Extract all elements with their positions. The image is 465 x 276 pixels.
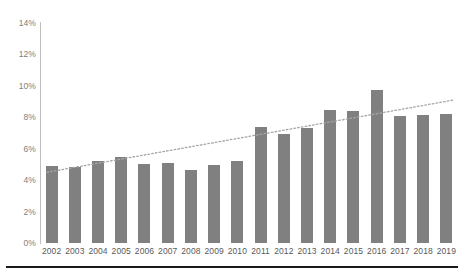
bar-slot: [86, 23, 109, 243]
bar[interactable]: [371, 90, 383, 243]
bar-slot: [226, 23, 249, 243]
x-tick-label: 2008: [179, 246, 202, 256]
bar[interactable]: [440, 114, 452, 243]
x-tick-label: 2004: [86, 246, 109, 256]
bar-slot: [365, 23, 388, 243]
x-tick-label: 2005: [110, 246, 133, 256]
bar-slot: [40, 23, 63, 243]
bar[interactable]: [138, 164, 150, 243]
x-tick-label: 2012: [272, 246, 295, 256]
x-tick-label: 2010: [226, 246, 249, 256]
bar[interactable]: [69, 167, 81, 243]
bar[interactable]: [255, 127, 267, 243]
x-tick-label: 2009: [203, 246, 226, 256]
bar-slot: [272, 23, 295, 243]
bar-slot: [179, 23, 202, 243]
bar[interactable]: [208, 165, 220, 243]
bar[interactable]: [115, 157, 127, 243]
bar[interactable]: [394, 116, 406, 243]
bar-slot: [388, 23, 411, 243]
bar[interactable]: [231, 161, 243, 243]
bar-slot: [203, 23, 226, 243]
bar-slot: [249, 23, 272, 243]
bar[interactable]: [92, 161, 104, 243]
x-tick-label: 2015: [342, 246, 365, 256]
bar-slot: [156, 23, 179, 243]
y-tick-label: 0%: [24, 238, 37, 248]
bar-chart: 0%2%4%6%8%10%12%14% 20022003200420052006…: [0, 0, 465, 276]
x-tick-label: 2002: [40, 246, 63, 256]
y-tick-label: 12%: [19, 49, 36, 59]
bar-slot: [342, 23, 365, 243]
y-tick-label: 2%: [24, 207, 37, 217]
x-tick-label: 2013: [295, 246, 318, 256]
bar-slot: [435, 23, 458, 243]
plot-area: [40, 23, 458, 243]
x-tick-label: 2019: [435, 246, 458, 256]
bar[interactable]: [278, 134, 290, 243]
bar[interactable]: [347, 111, 359, 243]
x-axis-tick-labels: 2002200320042005200620072008200920102011…: [40, 246, 458, 262]
bar-slot: [133, 23, 156, 243]
y-tick-label: 4%: [24, 175, 37, 185]
x-tick-label: 2007: [156, 246, 179, 256]
y-axis-tick-labels: 0%2%4%6%8%10%12%14%: [0, 0, 36, 276]
x-tick-label: 2016: [365, 246, 388, 256]
x-tick-label: 2003: [63, 246, 86, 256]
y-tick-label: 8%: [24, 112, 37, 122]
x-tick-label: 2017: [388, 246, 411, 256]
bar[interactable]: [301, 128, 313, 243]
x-tick-label: 2014: [319, 246, 342, 256]
x-tick-label: 2018: [412, 246, 435, 256]
bar[interactable]: [417, 115, 429, 243]
bar-slot: [63, 23, 86, 243]
y-tick-label: 14%: [19, 18, 36, 28]
bar[interactable]: [46, 166, 58, 243]
y-tick-label: 6%: [24, 144, 37, 154]
bar-slot: [412, 23, 435, 243]
x-tick-label: 2006: [133, 246, 156, 256]
bar-slot: [319, 23, 342, 243]
bar[interactable]: [185, 170, 197, 243]
y-tick-label: 10%: [19, 81, 36, 91]
bar-slot: [110, 23, 133, 243]
bar[interactable]: [162, 163, 174, 243]
x-tick-label: 2011: [249, 246, 272, 256]
bar-slot: [295, 23, 318, 243]
bottom-divider: [6, 266, 458, 268]
bar[interactable]: [324, 110, 336, 243]
